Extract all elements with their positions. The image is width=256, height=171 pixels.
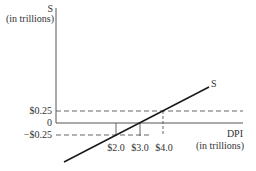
- y-axis-unit: (in trillions): [0, 13, 54, 24]
- x-axis-title: DPI: [180, 128, 243, 139]
- y-tick-pos: $0.25: [0, 105, 52, 116]
- x-tick-2: $2.0: [107, 142, 125, 153]
- x-tick-3: $3.0: [131, 142, 149, 153]
- y-tick-neg: −$0.25: [0, 129, 52, 140]
- y-tick-zero: 0: [0, 117, 52, 128]
- x-tick-4: $4.0: [155, 142, 173, 153]
- curve-label: S: [211, 78, 217, 89]
- x-axis-unit: (in trillions): [180, 140, 244, 151]
